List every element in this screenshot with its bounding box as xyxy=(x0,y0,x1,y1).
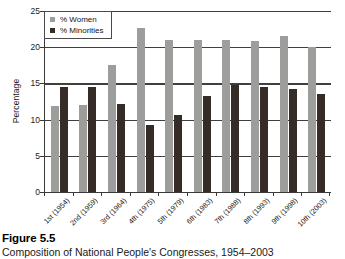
bar-women xyxy=(194,40,202,192)
bar-women xyxy=(308,47,316,192)
x-axis-category-label-text: 6th (1983) xyxy=(184,196,214,226)
chart-legend: % Women % Minorities xyxy=(44,11,112,39)
figure-caption-block: Figure 5.5 Composition of National Peopl… xyxy=(2,232,342,259)
bar-minorities xyxy=(60,87,68,192)
bar-women xyxy=(137,28,145,192)
bar-group xyxy=(159,11,188,192)
legend-label: % Women xyxy=(60,15,97,24)
bar-group xyxy=(245,11,274,192)
bar-women xyxy=(251,41,259,192)
x-axis-category-label-text: 5th (1979) xyxy=(155,196,185,226)
bar-group xyxy=(302,11,331,192)
legend-item-minorities: % Minorities xyxy=(50,26,104,35)
bar-group xyxy=(188,11,217,192)
bar-group xyxy=(274,11,303,192)
square-swatch-icon xyxy=(50,17,55,22)
bar-group xyxy=(217,11,246,192)
bar-group xyxy=(131,11,160,192)
x-axis-category-labels: 1st (1954)2nd (1959)3rd (1964)4th (1975)… xyxy=(44,196,330,228)
y-axis-tick-label: 25 xyxy=(31,6,40,16)
figure-5-5: Percentage 0510152025 1st (1954)2nd (195… xyxy=(0,0,345,259)
y-axis-tick-label: 10 xyxy=(31,115,40,125)
y-axis-tick-labels: 0510152025 xyxy=(20,0,40,200)
y-axis-tick-label: 15 xyxy=(31,78,40,88)
y-axis-tick-label: 20 xyxy=(31,42,40,52)
square-swatch-icon xyxy=(50,28,55,33)
bar-women xyxy=(165,40,173,192)
legend-label: % Minorities xyxy=(60,26,104,35)
x-axis-category-label-text: 8th (1993) xyxy=(241,196,271,226)
bar-chart: Percentage 0510152025 1st (1954)2nd (195… xyxy=(0,0,345,228)
bar-women xyxy=(51,106,59,192)
bar-women xyxy=(222,40,230,192)
bar-women xyxy=(280,36,288,192)
x-axis-category-label-text: 4th (1975) xyxy=(127,196,157,226)
figure-caption-text: Composition of National People's Congres… xyxy=(2,246,342,259)
figure-number: Figure 5.5 xyxy=(2,232,342,245)
x-axis-category-label-text: 7th (1988) xyxy=(213,196,243,226)
legend-item-women: % Women xyxy=(50,15,104,24)
x-axis-category-label-text: 3rd (1964) xyxy=(98,196,128,226)
x-axis-category-label-text: 1st (1954) xyxy=(41,196,71,226)
